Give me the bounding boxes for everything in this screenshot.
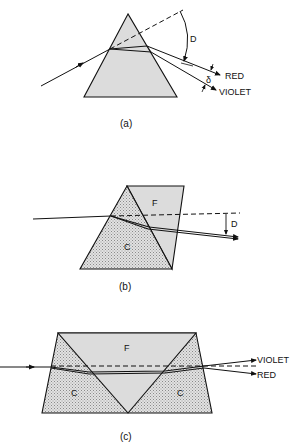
flint-label-c: F: [124, 343, 130, 353]
figure-b: F C D (b): [33, 186, 240, 292]
red-label-a: RED: [225, 71, 245, 81]
crown-left-label-c: C: [71, 388, 78, 398]
caption-a: (a): [120, 118, 132, 129]
dispersion-label: δ: [206, 75, 211, 85]
deviation-arc-a: [180, 11, 188, 61]
incident-ray-b: [33, 216, 111, 219]
figure-c: F C C VIOLET RED (c): [0, 333, 290, 442]
violet-label-a: VIOLET: [219, 87, 252, 97]
red-ray-c: [204, 368, 256, 374]
violet-label-c: VIOLET: [257, 355, 290, 365]
caption-c: (c): [120, 431, 132, 442]
crown-right-label-c: C: [177, 388, 184, 398]
crown-label-b: C: [124, 242, 131, 252]
violet-ray-c: [204, 360, 256, 366]
figure-a: D δ RED VIOLET (a): [41, 10, 252, 129]
incident-arrow-a: [76, 63, 83, 67]
angle-label-d-b: D: [231, 219, 238, 229]
prism-diagram: D δ RED VIOLET (a) F C D (b) F C C: [0, 0, 295, 443]
angle-label-d-a: D: [190, 34, 197, 44]
flint-label-b: F: [152, 198, 158, 208]
red-label-c: RED: [257, 370, 277, 380]
caption-b: (b): [119, 281, 131, 292]
